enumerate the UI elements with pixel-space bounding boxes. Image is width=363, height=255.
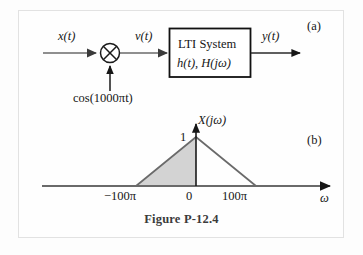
xtick-label-zero: 0: [186, 190, 192, 203]
intermediate-signal-label: v(t): [135, 30, 152, 43]
lti-block-title: LTI System: [178, 38, 236, 51]
panel-tag-a: (a): [307, 20, 321, 33]
spectrum-peak-tick-label: 1: [180, 131, 186, 144]
xtick-label-positive: 100π: [222, 190, 247, 203]
xtick-label-negative: −100π: [104, 190, 136, 203]
panel-tag-b: (b): [307, 134, 322, 147]
figure-caption: Figure P-12.4: [0, 212, 363, 227]
figure-container: x(t) v(t) y(t) cos(1000πt) LTI System h(…: [0, 0, 363, 255]
output-signal-label: y(t): [262, 30, 279, 43]
spectrum-title-label: X(jω): [198, 114, 226, 127]
carrier-signal-label: cos(1000πt): [73, 92, 133, 105]
lti-block-impulse-response: h(t), H(jω): [177, 57, 231, 70]
input-signal-label: x(t): [58, 30, 75, 43]
multiplier-node: [101, 44, 120, 63]
omega-axis-label: ω: [320, 192, 329, 205]
